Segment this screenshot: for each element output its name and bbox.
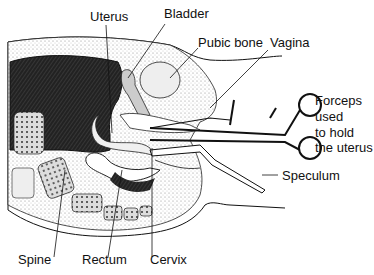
- label-forceps-line-1: Forceps: [315, 93, 362, 108]
- pubic-bone-shape: [140, 62, 180, 98]
- label-vagina: Vagina: [270, 35, 310, 50]
- label-bladder: Bladder: [164, 6, 209, 21]
- label-pubic-bone: Pubic bone: [198, 35, 263, 50]
- label-forceps-line-3: to hold: [315, 125, 354, 140]
- label-cervix: Cervix: [150, 252, 187, 267]
- diagram: Uterus Bladder Pubic bone Vagina Forceps…: [0, 0, 374, 275]
- label-spine: Spine: [18, 252, 51, 267]
- label-speculum: Speculum: [282, 168, 340, 183]
- label-uterus: Uterus: [90, 9, 128, 24]
- label-rectum: Rectum: [82, 252, 127, 267]
- label-forceps-line-2: used: [315, 109, 343, 124]
- label-forceps-line-4: the uterus: [315, 140, 373, 155]
